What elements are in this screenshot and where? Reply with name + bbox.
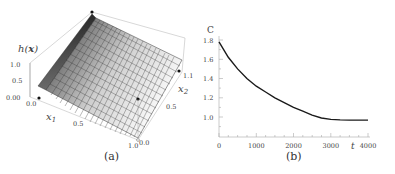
- x1-tick: 0.5: [73, 120, 83, 128]
- z-tick: 0.5: [12, 77, 22, 85]
- x-tick-label: 1000: [248, 142, 265, 150]
- surface-plot-panel: h(x) 1.0 0.5 0.00 0.0 0.5 1.0 x1 0.0 0.5…: [0, 0, 200, 174]
- axes: [219, 36, 370, 137]
- x2-axis-label: x2: [178, 83, 189, 96]
- z-tick: 1.0: [10, 61, 20, 69]
- x2-tick: 0.5: [166, 103, 176, 111]
- y-axis-label: C: [207, 25, 214, 35]
- z-tick: 0.00: [6, 94, 20, 102]
- line-chart-panel: 1.8 1.6 1.4 1.2 1.0 0 1000 2000 3000 400…: [200, 0, 395, 174]
- x-axis-label: t: [351, 141, 355, 151]
- y-tick-label: 1.6: [203, 56, 213, 64]
- x1-tick: 0.0: [26, 100, 36, 108]
- line-chart: 1.8 1.6 1.4 1.2 1.0 0 1000 2000 3000 400…: [200, 0, 395, 174]
- panel-b-caption: (b): [286, 150, 302, 163]
- y-tick-label: 1.4: [203, 75, 213, 83]
- x-tick-label: 4000: [360, 142, 377, 150]
- x-tick-label: 3000: [323, 142, 340, 150]
- y-tick-label: 1.8: [203, 37, 213, 45]
- data-line: [219, 42, 368, 120]
- x-ticks: [219, 133, 368, 137]
- y-ticks: [219, 40, 223, 127]
- x2-tick: 1.1: [183, 72, 193, 80]
- x2-tick: 0.0: [139, 139, 149, 147]
- x-tick-label: 2000: [285, 142, 302, 150]
- surface-plot: h(x) 1.0 0.5 0.00 0.0 0.5 1.0 x1 0.0 0.5…: [0, 0, 200, 174]
- y-tick-label: 1.2: [203, 94, 213, 102]
- z-axis-label: h(x): [18, 43, 38, 54]
- panel-a-caption: (a): [104, 150, 119, 163]
- x1-axis-label: x1: [46, 111, 56, 124]
- surface-mesh: [46, 18, 182, 138]
- x1-tick: 1.0: [128, 142, 138, 150]
- x-tick-label: 0: [217, 142, 221, 150]
- y-tick-label: 1.0: [203, 114, 213, 122]
